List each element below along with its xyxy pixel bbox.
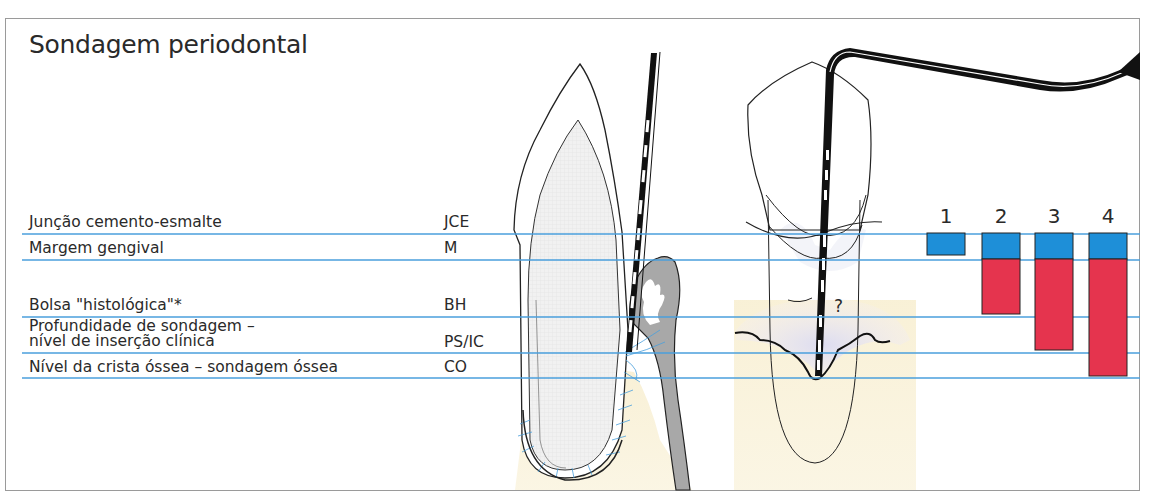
- column-4-blue: [1089, 233, 1127, 259]
- column-number-3: 3: [1034, 204, 1074, 228]
- column-2-blue: [982, 233, 1020, 259]
- label-probing-depth-line2: nível de inserção clínica: [29, 333, 215, 349]
- column-4-red: [1089, 259, 1127, 376]
- column-3-blue: [1035, 233, 1073, 259]
- left-tooth-section: [514, 52, 692, 490]
- column-number-2: 2: [981, 204, 1021, 228]
- column-3-red: [1035, 259, 1073, 350]
- abbr-probing-depth: PS/IC: [444, 334, 484, 350]
- abbr-bone-crest: CO: [444, 359, 467, 375]
- column-1-blue: [927, 233, 965, 255]
- column-2-red: [982, 259, 1020, 314]
- abbr-jce: JCE: [444, 214, 469, 230]
- abbr-histological-pocket: BH: [444, 297, 466, 313]
- column-number-1: 1: [926, 204, 966, 228]
- label-histological-pocket: Bolsa "histológica"*: [29, 297, 182, 313]
- question-mark-annotation: ?: [834, 296, 843, 316]
- label-jce: Junção cemento-esmalte: [29, 214, 222, 230]
- label-margin: Margem gengival: [29, 240, 164, 256]
- abbr-margin: M: [444, 240, 457, 256]
- right-tooth-frontal: [734, 48, 1140, 490]
- diagram-illustration: [0, 0, 1149, 501]
- column-number-4: 4: [1088, 204, 1128, 228]
- label-bone-crest: Nível da crista óssea – sondagem óssea: [29, 359, 338, 375]
- bar-chart-columns: [927, 233, 1127, 376]
